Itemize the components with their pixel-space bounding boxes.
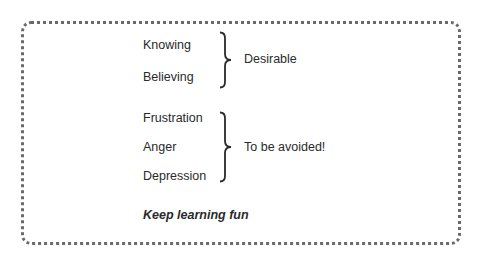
item-anger: Anger [143,140,176,154]
group-label-to-be-avoided: To be avoided! [244,140,325,154]
group-label-desirable: Desirable [244,52,297,66]
item-knowing: Knowing [143,38,191,52]
footer-note: Keep learning fun [143,208,249,222]
item-frustration: Frustration [143,111,203,125]
item-believing: Believing [143,70,194,84]
right-brace-icon [218,31,234,89]
item-depression: Depression [143,169,206,183]
right-brace-icon [218,111,234,183]
